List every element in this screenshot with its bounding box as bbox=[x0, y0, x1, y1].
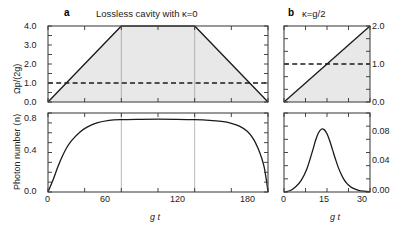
panel-b-bottom-axes bbox=[284, 113, 370, 192]
panel-b-top-axes bbox=[284, 26, 370, 102]
panel-a-top-axes bbox=[48, 26, 268, 102]
panel-a-bottom-axes bbox=[48, 113, 268, 192]
figure-root: a Lossless cavity with κ=0 b κ=g/2 Ωp/(2… bbox=[0, 0, 403, 233]
plot-canvas bbox=[0, 0, 403, 233]
